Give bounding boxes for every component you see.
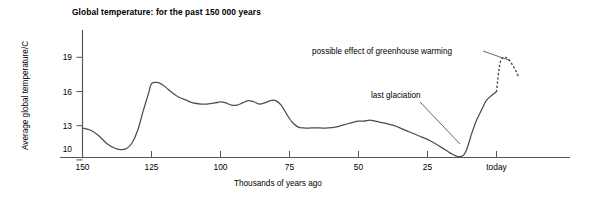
y-tick-label: 19 (63, 52, 73, 62)
annotation-greenhouse-warming: possible effect of greenhouse warming (312, 47, 510, 61)
y-axis-title: Average global temperature/C (21, 41, 30, 150)
chart-title: Global temperature: for the past 150 000… (72, 7, 261, 17)
y-axis-ticks: 19 16 13 10 (63, 52, 83, 159)
x-tick-label: 125 (145, 162, 159, 172)
annotation-last-glaciation-leader (420, 102, 460, 144)
y-tick-label: 13 (63, 121, 73, 131)
annotation-greenhouse-warming-label: possible effect of greenhouse warming (312, 47, 452, 56)
temperature-line-chart: Global temperature: for the past 150 000… (0, 0, 592, 204)
x-tick-label: 75 (285, 162, 295, 172)
x-axis-title: Thousands of years ago (234, 179, 322, 188)
x-tick-label: 25 (423, 162, 433, 172)
chart-figure: Global temperature: for the past 150 000… (0, 0, 592, 204)
x-tick-label: 150 (76, 162, 90, 172)
x-tick-label: today (486, 162, 507, 172)
temperature-curve-observed (83, 82, 497, 156)
annotation-last-glaciation-label: last glaciation (371, 91, 421, 100)
x-tick-label: 100 (214, 162, 228, 172)
annotation-greenhouse-warming-leader (483, 51, 510, 61)
x-tick-label: 50 (354, 162, 364, 172)
annotation-last-glaciation: last glaciation (371, 91, 460, 144)
x-axis-ticks: 150 125 100 75 50 25 today (76, 151, 508, 172)
y-tick-label: 10 (63, 144, 73, 154)
y-tick-label: 16 (63, 87, 73, 97)
temperature-curve-projected (497, 57, 519, 91)
